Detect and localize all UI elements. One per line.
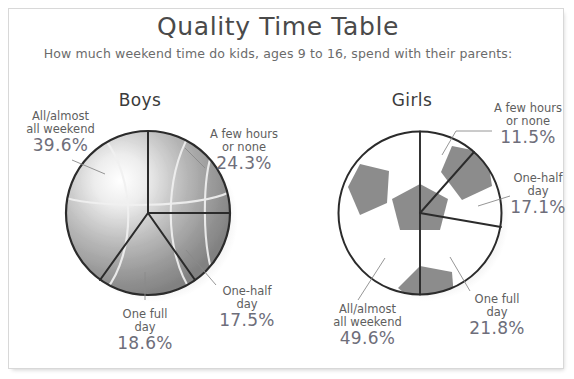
- label-boys-all-weekend: All/almost all weekend 39.6%: [8, 110, 113, 152]
- label-value: 11.5%: [487, 131, 569, 144]
- label-value: 17.5%: [208, 314, 286, 327]
- label-girls-one-full-day: One full day 21.8%: [458, 293, 536, 335]
- label-line-2: or none: [222, 140, 266, 154]
- label-line-1: A few hours: [494, 101, 562, 115]
- label-boys-few-hours: A few hours or none 24.3%: [198, 128, 290, 170]
- label-girls-few-hours: A few hours or none 11.5%: [487, 102, 569, 144]
- label-line-1: One-half: [222, 284, 271, 298]
- label-line-2: all weekend: [26, 122, 95, 136]
- label-value: 18.6%: [106, 337, 184, 350]
- label-line-2: day: [527, 184, 548, 198]
- label-line-1: All/almost: [339, 302, 396, 316]
- label-value: 39.6%: [8, 139, 113, 152]
- label-line-2: all weekend: [333, 315, 402, 329]
- label-line-1: One full: [123, 307, 168, 321]
- chart-girls: [339, 131, 511, 306]
- label-value: 17.1%: [505, 201, 571, 214]
- label-boys-one-half-day: One-half day 17.5%: [208, 285, 286, 327]
- label-line-2: day: [486, 305, 507, 319]
- label-value: 49.6%: [315, 332, 420, 345]
- label-girls-all-weekend: All/almost all weekend 49.6%: [315, 303, 420, 345]
- label-line-2: day: [134, 320, 155, 334]
- label-line-1: All/almost: [32, 109, 89, 123]
- label-line-1: One full: [475, 292, 520, 306]
- label-line-1: One-half: [513, 171, 562, 185]
- label-value: 21.8%: [458, 322, 536, 335]
- label-line-1: A few hours: [210, 127, 278, 141]
- label-value: 24.3%: [198, 157, 290, 170]
- label-boys-one-full-day: One full day 18.6%: [106, 308, 184, 350]
- label-line-2: day: [236, 297, 257, 311]
- label-line-2: or none: [506, 114, 550, 128]
- label-girls-one-half-day: One-half day 17.1%: [505, 172, 571, 214]
